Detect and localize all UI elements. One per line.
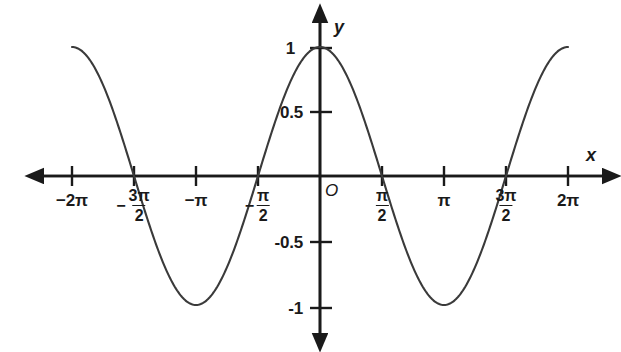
fraction-denominator: 2 <box>500 205 513 224</box>
fraction-numerator: π <box>374 188 390 205</box>
fraction-denominator: 2 <box>376 205 389 224</box>
x-label-negpi-over-2: − π 2 <box>245 188 272 224</box>
minus-sign: − <box>245 198 254 214</box>
minus-sign: − <box>116 198 125 214</box>
y-axis-label: y <box>334 18 344 36</box>
y-label-neg0point5: -0.5 <box>275 234 304 251</box>
x-label-2pi: 2π <box>557 192 579 209</box>
fraction-denominator: 2 <box>257 205 270 224</box>
fraction-numerator: π <box>255 188 271 205</box>
origin-label: O <box>325 182 338 199</box>
fraction: 3π 2 <box>493 188 518 224</box>
y-label-0point5: 0.5 <box>280 104 303 121</box>
x-label-neg3pi-over-2: − 3π 2 <box>116 188 152 224</box>
x-label-negpi: −π <box>185 192 208 209</box>
fraction-numerator: 3π <box>493 188 518 205</box>
x-label-3pi-over-2: 3π 2 <box>493 188 518 224</box>
plot-canvas <box>0 0 621 352</box>
x-label-pi: π <box>438 192 451 209</box>
cosine-graph-figure: y x O 1 0.5 -0.5 -1 −2π −π π 2π − 3π 2 −… <box>0 0 621 352</box>
x-label-neg2pi: −2π <box>56 192 88 209</box>
fraction-denominator: 2 <box>133 205 146 224</box>
fraction: π 2 <box>374 188 390 224</box>
y-label-neg1: -1 <box>288 300 303 317</box>
x-label-pi-over-2: π 2 <box>374 188 390 224</box>
y-label-1: 1 <box>286 40 295 57</box>
fraction: π 2 <box>255 188 271 224</box>
x-axis-label: x <box>586 146 596 164</box>
fraction: 3π 2 <box>127 188 152 224</box>
fraction-numerator: 3π <box>127 188 152 205</box>
